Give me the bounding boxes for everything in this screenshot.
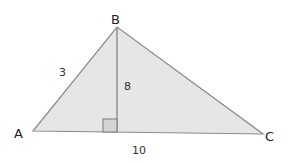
vertex-label-b: B [111, 12, 120, 27]
side-ab-length: 3 [59, 66, 66, 79]
vertex-label-c: C [265, 129, 274, 144]
triangle-abc [33, 27, 263, 134]
vertex-label-a: A [14, 126, 23, 141]
altitude-length: 8 [124, 80, 131, 93]
right-angle-marker [103, 119, 117, 132]
base-ac-length: 10 [132, 144, 146, 157]
triangle-diagram: A B C 3 8 10 [0, 0, 288, 163]
